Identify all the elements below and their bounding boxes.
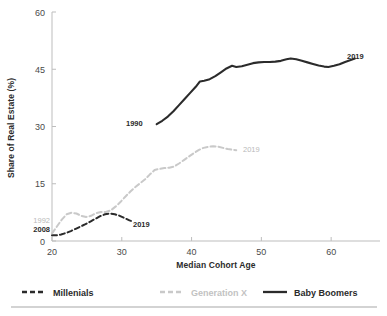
y-tick-label: 45 <box>35 65 45 75</box>
series-line-baby-boomers <box>157 59 355 125</box>
line-chart: Share of Real Estate (%) 015304560 20304… <box>0 0 387 316</box>
chart-container: Share of Real Estate (%) 015304560 20304… <box>0 0 387 316</box>
chart-legend: MillenialsGeneration XBaby Boomers <box>22 288 358 298</box>
series-annotation: 2019 <box>133 220 150 229</box>
y-tick-label: 30 <box>35 122 45 132</box>
x-tick-label: 50 <box>256 247 266 257</box>
legend-label-millenials: Millenials <box>53 288 94 298</box>
x-tick-label: 20 <box>47 247 57 257</box>
y-tick-label: 0 <box>40 237 45 247</box>
series-annotation: 2008 <box>33 225 50 234</box>
y-tick-label: 60 <box>35 8 45 18</box>
series-annotations: 200820191992201919902019 <box>33 52 363 234</box>
x-axis-title: Median Cohort Age <box>176 260 255 270</box>
x-tick-label: 40 <box>187 247 197 257</box>
series-annotation: 1990 <box>126 119 143 128</box>
y-axis-title: Share of Real Estate (%) <box>6 78 16 178</box>
legend-label-baby-boomers: Baby Boomers <box>294 288 358 298</box>
x-tick-label: 30 <box>117 247 127 257</box>
y-axis-ticks: 015304560 <box>35 8 56 247</box>
x-axis-ticks: 2030405060 <box>47 237 336 257</box>
x-tick-label: 60 <box>326 247 336 257</box>
legend-label-generation-x: Generation X <box>191 288 247 298</box>
series-paths <box>52 59 355 236</box>
y-tick-label: 15 <box>35 179 45 189</box>
series-annotation: 2019 <box>243 145 260 154</box>
series-annotation: 2019 <box>347 52 364 61</box>
series-annotation: 1992 <box>33 216 50 225</box>
